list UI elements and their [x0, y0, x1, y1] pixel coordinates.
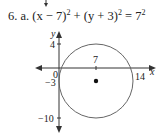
- x-axis-label: x: [149, 66, 155, 77]
- y-axis-up-arrow-icon: [56, 31, 62, 38]
- y-axis-label: y: [50, 28, 56, 39]
- y-axis-down-arrow-icon: [56, 126, 62, 133]
- top-arrow-fragment-icon: [44, 0, 48, 7]
- tick-label-y-neg10: −10: [38, 113, 54, 124]
- x-axis-left-arrow-icon: [35, 65, 42, 71]
- center-point: [94, 79, 98, 83]
- tick-label-x-7: 7: [93, 54, 98, 65]
- circle-graph: y x 4 0 −3 −10 7 14: [0, 0, 166, 135]
- tick-label-x-14: 14: [135, 71, 145, 82]
- tick-label-y-neg3: −3: [45, 77, 56, 88]
- tick-label-y-4: 4: [50, 39, 55, 50]
